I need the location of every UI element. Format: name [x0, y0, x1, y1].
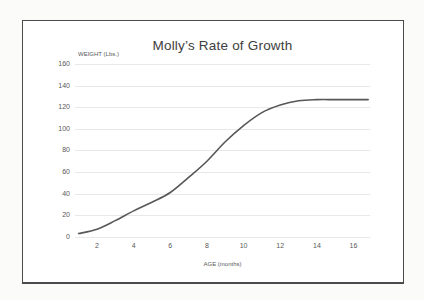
growth-curve — [23, 21, 403, 282]
growth-curve-path — [79, 100, 369, 234]
worksheet-page: Molly’s Rate of Growth WEIGHT (Lbs.) AGE… — [0, 0, 424, 300]
growth-chart: Molly’s Rate of Growth WEIGHT (Lbs.) AGE… — [22, 20, 404, 284]
